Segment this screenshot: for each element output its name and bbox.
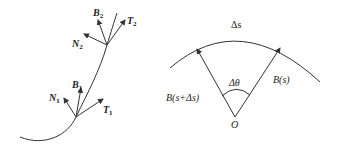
angle-arc: [222, 89, 250, 96]
frame-point-2: T2 B2 N2: [71, 7, 137, 51]
normal-label-2: N2: [71, 38, 83, 51]
arc-length-label: Δs: [231, 19, 241, 30]
tangent-label-2: T2: [127, 15, 137, 28]
binormal-indicatrix-arc: [170, 41, 320, 82]
binormal-label-2: B2: [92, 7, 104, 20]
angle-label: Δθ: [228, 77, 240, 88]
b-s-plus-ds-label: B(s+Δs): [166, 92, 200, 104]
normal-arrow-1: [64, 98, 76, 117]
diagram-canvas: T1 B1 N1 T2 B2 N2 Δs Δθ O B(s) B(s+Δs): [0, 0, 337, 154]
normal-label-1: N1: [48, 92, 60, 105]
left-figure: T1 B1 N1 T2 B2 N2: [20, 7, 137, 141]
tangent-arrow-2: [107, 20, 125, 45]
right-figure: Δs Δθ O B(s) B(s+Δs): [166, 19, 320, 130]
frame-point-1: T1 B1 N1: [48, 79, 113, 117]
binormal-label-1: B1: [71, 79, 83, 92]
tangent-label-1: T1: [103, 104, 113, 117]
b-s-label: B(s): [273, 74, 290, 86]
origin-label: O: [231, 119, 238, 130]
